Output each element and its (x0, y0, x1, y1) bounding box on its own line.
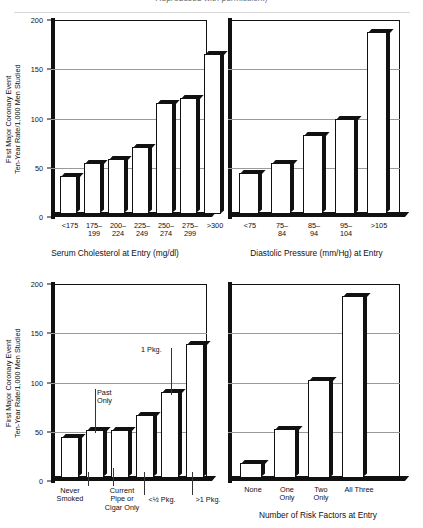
bar-never-smoked (61, 437, 79, 478)
bar-side-face (153, 412, 157, 477)
bar-top-face (62, 434, 86, 438)
bar-side-face (354, 116, 358, 213)
bar-side-face (258, 170, 262, 213)
ytick-mark-150 (47, 69, 51, 70)
figure-caption-clip: Reproduced with permission.) (0, 0, 423, 12)
ytick-label-50: 50 (17, 163, 43, 172)
x-axis-title: Number of Risk Factors at Entry (219, 510, 417, 520)
annotation-leader-past-only (95, 389, 96, 433)
x-axis-title: Serum Cholesterol at Entry (mg/dl) (20, 248, 210, 258)
gridline-150 (51, 69, 207, 70)
bar-top-face (137, 412, 161, 416)
gridline-100 (51, 383, 207, 384)
bar-one-pkg (161, 392, 179, 478)
xtick-lt-half-pkg: <½ Pkg. (141, 496, 183, 504)
bar-side-face (322, 133, 326, 213)
bar-top-face (181, 95, 204, 99)
bar-side-face (363, 293, 367, 477)
ytick-mark-50 (47, 167, 51, 168)
bar-top-face (205, 51, 228, 55)
ytick-mark-100 (47, 382, 51, 383)
chart-serum-cholesterol: First Major Coronary Event Ten-Year Rate… (0, 16, 213, 271)
chart-risk-factor-count: None One Only Two Only All Three Number … (213, 282, 423, 528)
ytick-label-100: 100 (17, 114, 43, 123)
chart-diastolic-pressure: <75 75– 84 85– 94 95– 104 >105 Diastolic… (213, 16, 423, 271)
plot-area (228, 20, 400, 217)
chart-smoking-status: First Major Coronary Event Ten-Year Rate… (0, 282, 213, 528)
ytick-label-150: 150 (17, 65, 43, 74)
bar-side-face (329, 377, 333, 477)
bar-past-only (86, 430, 104, 478)
bar-one-only (274, 429, 296, 478)
xtick-gt105: >105 (361, 222, 397, 230)
xtick-75-84: 75– 84 (264, 222, 300, 239)
ytick-label-0: 0 (17, 213, 43, 222)
bar-all-three (342, 296, 364, 478)
header-divider (14, 12, 410, 13)
xtick-one-only: One Only (269, 486, 305, 503)
bar-85-94 (303, 135, 323, 214)
bar-top-face (157, 100, 180, 104)
bar-top-face (112, 427, 136, 431)
xtick-pipe-cigar-only: Current Pipe or Cigar Only (99, 487, 145, 512)
bar-side-face (128, 427, 132, 477)
bar-side-face (148, 144, 152, 213)
bar-top-face (109, 156, 132, 160)
bar-side-face (290, 160, 294, 213)
xtick-leader-never-smoked (88, 472, 89, 486)
ytick-mark-0 (47, 481, 51, 482)
xtick-95-104: 95– 104 (328, 222, 364, 239)
bar-95-104 (335, 119, 355, 215)
bar-side-face (220, 51, 224, 213)
bar-lt175 (60, 176, 77, 214)
bar-lt75 (239, 173, 259, 214)
bar-side-face (178, 390, 182, 477)
figure-page: Reproduced with permission.) First Major… (0, 0, 423, 528)
xtick-lt75: <75 (232, 222, 268, 230)
bar-top-face (133, 144, 156, 148)
bar-gt300 (204, 54, 221, 215)
bar-side-face (172, 100, 176, 213)
bar-lt-half-pkg (136, 415, 154, 478)
annotation-past-only: Past Only (97, 389, 131, 406)
gridline-150 (228, 333, 400, 334)
bar-75-84 (271, 163, 291, 214)
bar-top-face (85, 160, 108, 164)
bar-250-274 (156, 103, 173, 214)
ytick-mark-150 (47, 333, 51, 334)
bar-side-face (76, 173, 80, 213)
bar-two-only (308, 380, 330, 479)
annotation-leader-one-pkg (171, 348, 172, 395)
bar-side-face (124, 156, 128, 213)
ytick-label-150: 150 (17, 329, 43, 338)
plot-area: 0 50 100 150 200 (51, 20, 207, 217)
ytick-mark-50 (47, 431, 51, 432)
xtick-never-smoked: Never Smoked (50, 487, 90, 504)
bar-none (240, 463, 262, 478)
bar-gt105 (367, 32, 387, 214)
bar-top-face (87, 427, 111, 431)
ytick-mark-0 (47, 217, 51, 218)
xtick-85-94: 85– 94 (296, 222, 332, 239)
bar-side-face (103, 427, 107, 477)
bar-side-face (78, 434, 82, 477)
ytick-label-50: 50 (17, 427, 43, 436)
bar-gt-one-pkg (186, 344, 204, 478)
ytick-label-0: 0 (17, 477, 43, 486)
ytick-label-200: 200 (17, 280, 43, 289)
bar-175-199 (84, 163, 101, 214)
bar-top-face (61, 173, 84, 177)
bar-225-249 (132, 147, 149, 214)
gridline-150 (51, 333, 207, 334)
bar-side-face (386, 29, 390, 213)
xtick-all-three: All Three (335, 486, 383, 494)
ytick-mark-200 (47, 20, 51, 21)
xtick-two-only: Two Only (303, 486, 339, 503)
xtick-none: None (235, 486, 271, 494)
bar-side-face (203, 341, 207, 477)
x-axis-title: Diastolic Pressure (mm/Hg) at Entry (219, 248, 414, 258)
bar-side-face (196, 95, 200, 213)
bar-side-face (100, 160, 104, 213)
plot-area: 0 50 100 150 200 Past Only 1 Pkg. (51, 284, 207, 481)
bar-side-face (295, 426, 299, 477)
